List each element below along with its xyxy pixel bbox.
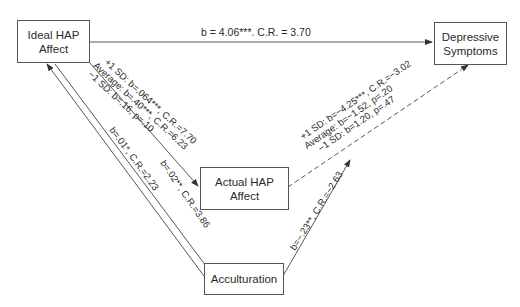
node-label-line2: Affect	[39, 42, 68, 56]
node-label-line1: Ideal HAP	[28, 28, 80, 42]
node-actual-hap-affect: Actual HAP Affect	[200, 167, 289, 210]
node-label-line2: Symptoms	[443, 44, 497, 58]
node-depressive-symptoms: Depressive Symptoms	[434, 22, 507, 65]
path-label-actual-to-depressive: +1 SD: b=−4.25***, C.R.=−3.02 Average: b…	[296, 58, 424, 159]
node-label-line1: Actual HAP	[215, 175, 274, 189]
path-label-ideal-to-depressive: b = 4.06***. C.R. = 3.70	[201, 26, 311, 38]
node-label-line2: Affect	[230, 189, 259, 203]
path-diagram: b = 4.06***. C.R. = 3.70 +1 SD: b=.064**…	[0, 0, 520, 307]
path-label-ideal-to-actual: +1 SD: b=.064***, C.R.=7.70 Average: b=.…	[85, 52, 199, 160]
svg-text:Average: b=.40***, C.R.=6.23: Average: b=.40***, C.R.=6.23	[91, 60, 190, 152]
node-label-line1: Acculturation	[211, 272, 277, 286]
svg-text:Average: b=−1.52, p=.20: Average: b=−1.52, p=.20	[302, 83, 395, 151]
node-acculturation: Acculturation	[204, 263, 284, 295]
node-ideal-hap-affect: Ideal HAP Affect	[17, 20, 90, 63]
node-label-line1: Depressive	[442, 30, 500, 44]
